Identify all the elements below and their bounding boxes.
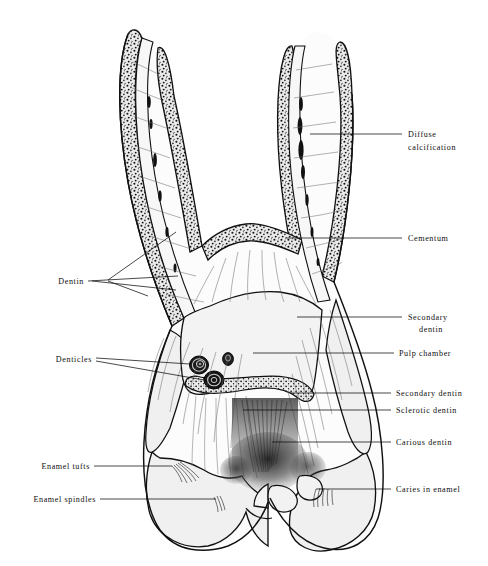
- label-sclerotic-dentin: Sclerotic dentin: [396, 406, 457, 415]
- tooth-histology-illustration: Diffuse calcification Cementum Secondary…: [0, 0, 488, 566]
- label-secondary-dentin-upper: Secondary: [408, 313, 448, 322]
- tooth-diagram-figure: Diffuse calcification Cementum Secondary…: [0, 0, 488, 566]
- label-enamel-spindles: Enamel spindles: [33, 495, 96, 504]
- label-pulp-chamber: Pulp chamber: [399, 349, 451, 358]
- label-enamel-tufts: Enamel tufts: [41, 462, 90, 471]
- label-denticles: Denticles: [56, 355, 92, 364]
- label-caries-in-enamel: Caries in enamel: [396, 485, 460, 494]
- label-carious-dentin: Carious dentin: [396, 438, 452, 447]
- label-cementum: Cementum: [408, 234, 449, 243]
- label-diffuse-calcification: Diffuse: [408, 130, 436, 139]
- label-diffuse-calcification-line2: calcification: [408, 143, 456, 152]
- label-dentin: Dentin: [58, 277, 84, 286]
- label-secondary-dentin-upper-line2: dentin: [419, 325, 443, 334]
- label-secondary-dentin-lower: Secondary dentin: [396, 389, 462, 398]
- denticle-large-lower: [204, 371, 224, 389]
